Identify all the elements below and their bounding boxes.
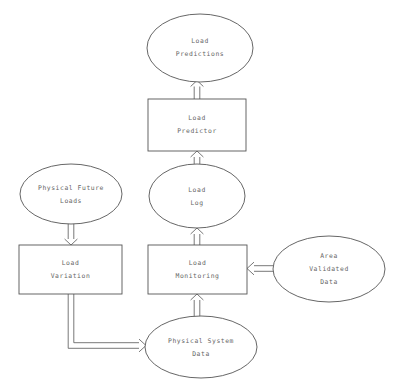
edge-variation-to-system-data xyxy=(68,294,146,352)
load-monitoring-label-line1: Load xyxy=(189,259,207,267)
load-log-ellipse[interactable] xyxy=(149,164,245,228)
edge-log-to-predictor xyxy=(191,151,204,164)
area-validated-data-label-line3: Data xyxy=(320,278,338,286)
physical-future-loads-label-line2: Loads xyxy=(60,197,82,205)
node-area-validated-data[interactable]: Area Validated Data xyxy=(273,236,385,302)
load-monitoring-rect[interactable] xyxy=(148,245,247,294)
edge-monitoring-to-log xyxy=(191,228,204,245)
physical-system-data-label-line1: Physical System xyxy=(168,337,234,345)
load-log-label-line2: Log xyxy=(190,199,203,207)
node-load-predictions[interactable]: Load Predictions xyxy=(147,14,253,82)
node-physical-future-loads[interactable]: Physical Future Loads xyxy=(20,164,122,224)
area-validated-data-label-line2: Validated xyxy=(309,265,349,273)
diagram-svg: Load Predictions Load Predictor Physical… xyxy=(0,0,393,389)
physical-system-data-ellipse[interactable] xyxy=(145,316,257,378)
physical-future-loads-ellipse[interactable] xyxy=(20,164,122,224)
load-predictions-label-line1: Load xyxy=(191,37,209,45)
physical-future-loads-label-line1: Physical Future xyxy=(38,184,104,192)
node-load-predictor[interactable]: Load Predictor xyxy=(148,99,246,151)
load-variation-label-line1: Load xyxy=(62,259,80,267)
node-physical-system-data[interactable]: Physical System Data xyxy=(145,316,257,378)
area-validated-data-label-line1: Area xyxy=(320,252,338,260)
load-predictor-label-line1: Load xyxy=(188,114,206,122)
load-predictions-ellipse[interactable] xyxy=(147,14,253,82)
load-variation-rect[interactable] xyxy=(19,245,122,294)
load-variation-label-line2: Variation xyxy=(51,272,91,280)
node-load-log[interactable]: Load Log xyxy=(149,164,245,228)
load-predictor-label-line2: Predictor xyxy=(177,127,217,135)
edge-future-loads-to-variation xyxy=(65,223,78,245)
load-predictor-rect[interactable] xyxy=(148,99,246,151)
edge-validated-data-to-monitoring xyxy=(247,262,275,275)
diagram-canvas: Load Predictions Load Predictor Physical… xyxy=(0,0,393,389)
load-monitoring-label-line2: Monitoring xyxy=(176,272,220,280)
edge-system-data-to-monitoring xyxy=(191,294,204,318)
node-load-monitoring[interactable]: Load Monitoring xyxy=(148,245,247,294)
physical-system-data-label-line2: Data xyxy=(192,350,210,358)
edge-predictor-to-predictions xyxy=(191,81,204,100)
load-predictions-label-line2: Predictions xyxy=(176,50,224,58)
node-load-variation[interactable]: Load Variation xyxy=(19,245,122,294)
load-log-label-line1: Load xyxy=(188,186,206,194)
